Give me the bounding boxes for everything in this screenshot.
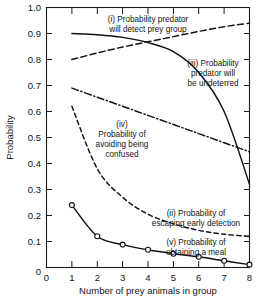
annotation-line: will detect prey group [108, 25, 187, 34]
right-axis-ticks [244, 34, 250, 242]
annotation-detect: (i) Probability predator will detect pre… [108, 15, 189, 34]
data-point-marker [247, 262, 252, 267]
annotation-line: be undeterred [188, 79, 239, 88]
y-tick-label: 0.9 [28, 28, 41, 39]
y-tick-label: 0.6 [28, 106, 41, 117]
data-point-marker [222, 258, 227, 263]
annotation-line: (iv) [116, 120, 128, 129]
x-tick-label: 1 [69, 272, 74, 283]
data-point-marker [120, 242, 125, 247]
annotation-undeterred: (iii) Probability predator will be undet… [187, 59, 239, 88]
chart-svg: 1.0 0.9 0.8 0.7 0.6 0.5 0.4 0.3 0.2 0.1 … [0, 0, 265, 299]
annotation-line: escaping early detection [152, 219, 241, 228]
y-tick-label: 0 [36, 266, 41, 277]
x-tick-label: 4 [145, 272, 150, 283]
x-tick-label: 5 [171, 272, 176, 283]
annotation-line: Probability of [98, 130, 146, 139]
y-tick-label: 0.2 [28, 210, 41, 221]
y-tick-label: 0.1 [28, 236, 41, 247]
y-axis-ticks [47, 8, 53, 242]
x-tick-label: 6 [196, 272, 201, 283]
figure-container: 1.0 0.9 0.8 0.7 0.6 0.5 0.4 0.3 0.2 0.1 … [0, 0, 265, 299]
annotation-line: avoiding being [96, 140, 149, 149]
annotation-line: (ii) Probability of [167, 209, 226, 218]
annotation-escape: (ii) Probability of escaping early detec… [152, 209, 241, 228]
x-tick-label: 3 [120, 272, 125, 283]
x-axis-ticks-top [72, 8, 224, 15]
annotation-line: (v) Probability of [166, 238, 226, 247]
annotation-line: predator will [191, 69, 235, 78]
x-tick-label: 0 [44, 272, 49, 283]
annotation-line: (i) Probability predator [108, 15, 189, 24]
x-axis-ticks [72, 261, 224, 268]
x-tick-label: 2 [95, 272, 100, 283]
annotation-confusion: (iv) Probability of avoiding being confu… [96, 120, 149, 159]
y-tick-label: 0.4 [28, 158, 41, 169]
y-tick-labels: 1.0 0.9 0.8 0.7 0.6 0.5 0.4 0.3 0.2 0.1 … [28, 2, 41, 277]
data-point-marker [146, 247, 151, 252]
plot-frame [47, 8, 250, 268]
annotation-line: obtaining a meal [166, 248, 226, 257]
y-tick-label: 0.3 [28, 184, 41, 195]
y-tick-label: 0.8 [28, 54, 41, 65]
y-tick-label: 1.0 [28, 2, 41, 13]
x-tick-label: 7 [221, 272, 226, 283]
annotation-meal: (v) Probability of obtaining a meal [166, 238, 226, 257]
x-tick-label: 8 [247, 272, 252, 283]
curve-detect [72, 34, 250, 185]
annotation-line: (iii) Probability [187, 59, 239, 68]
x-axis-title: Number of prey animals in group [79, 285, 217, 296]
y-tick-label: 0.7 [28, 80, 41, 91]
y-tick-label: 0.5 [28, 132, 41, 143]
annotation-line: confused [105, 150, 139, 159]
y-axis-title: Probability [4, 115, 15, 160]
data-point-marker [69, 203, 74, 208]
data-point-marker [95, 234, 100, 239]
x-tick-labels: 0 1 2 3 4 5 6 7 8 [44, 272, 252, 283]
